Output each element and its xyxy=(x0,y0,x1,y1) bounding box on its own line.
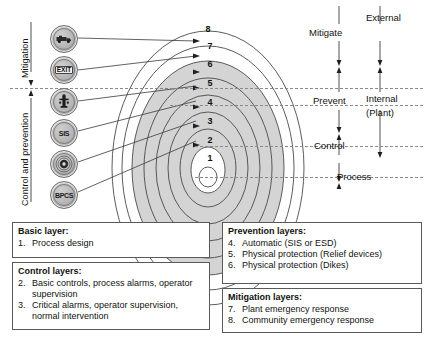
zone-label-external: External xyxy=(366,12,401,23)
alarm-siren-icon[interactable] xyxy=(50,150,78,178)
dashed-line-control-process xyxy=(195,146,423,147)
bpcs-icon[interactable]: BPCS xyxy=(50,181,78,209)
exit-sign-glyph: EXIT xyxy=(53,59,75,81)
item-text: Critical alarms, operator supervision, n… xyxy=(32,300,204,322)
exit-sign-label: EXIT xyxy=(55,66,73,75)
legend-list-control: 2. Basic controls, process alarms, opera… xyxy=(18,278,204,322)
fire-hydrant-icon[interactable] xyxy=(50,88,78,116)
item-text: Physical protection (Relief devices) xyxy=(242,249,416,260)
zone-label-control: Control xyxy=(314,140,345,151)
legend-box-mitigation-layers: Mitigation layers: 7. Plant emergency re… xyxy=(222,288,422,333)
ring-number-4: 4 xyxy=(204,97,216,107)
zone-label-internal: Internal xyxy=(366,93,398,104)
item-text: Plant emergency response xyxy=(242,304,416,315)
alarm-siren-glyph xyxy=(53,153,75,175)
dashed-line-process xyxy=(195,177,423,178)
connector-lines xyxy=(78,38,196,192)
ring-3 xyxy=(168,112,248,224)
diagram-canvas: Mitigation Control and prevention EXIT xyxy=(0,0,433,346)
connector-arrowheads xyxy=(193,39,200,148)
bpcs-glyph: BPCS xyxy=(53,184,75,206)
list-item: 4. Automatic (SIS or ESD) xyxy=(228,238,416,249)
side-label-control-and-prevention: Control and prevention xyxy=(20,96,30,206)
list-item: 8. Community emergency response xyxy=(228,315,416,326)
item-text: Basic controls, process alarms, operator… xyxy=(32,278,204,300)
legend-box-basic-layer: Basic layer: 1. Process design xyxy=(12,222,210,258)
zone-label-prevent: Prevent xyxy=(313,95,346,106)
ring-number-5: 5 xyxy=(204,78,216,88)
item-number: 3. xyxy=(18,300,32,322)
ring-number-6: 6 xyxy=(204,59,216,69)
item-number: 4. xyxy=(228,238,242,249)
legend-list-prevention: 4. Automatic (SIS or ESD) 5. Physical pr… xyxy=(228,238,416,271)
item-text: Community emergency response xyxy=(242,315,416,326)
zone-arrowheads xyxy=(337,60,383,189)
list-item: 5. Physical protection (Relief devices) xyxy=(228,249,416,260)
legend-header-mitigation: Mitigation layers: xyxy=(228,292,416,303)
zone-label-process: Process xyxy=(337,171,371,182)
legend-box-control-layers: Control layers: 2. Basic controls, proce… xyxy=(12,262,210,330)
fire-truck-glyph xyxy=(53,28,75,50)
list-item: 6. Physical protection (Dikes) xyxy=(228,260,416,271)
item-number: 5. xyxy=(228,249,242,260)
ring-number-3: 3 xyxy=(204,116,216,126)
sis-icon[interactable]: SIS xyxy=(50,119,78,147)
ring-number-7: 7 xyxy=(204,41,216,51)
zone-label-internal-sub: (Plant) xyxy=(366,107,394,118)
item-number: 7. xyxy=(228,304,242,315)
item-number: 2. xyxy=(18,278,32,300)
item-text: Automatic (SIS or ESD) xyxy=(242,238,416,249)
legend-header-prevention: Prevention layers: xyxy=(228,226,416,237)
sis-glyph: SIS xyxy=(53,122,75,144)
fire-truck-icon[interactable] xyxy=(50,25,78,53)
item-text: Physical protection (Dikes) xyxy=(242,260,416,271)
dashed-line-mitigate-prevent xyxy=(10,88,423,89)
side-label-mitigation: Mitigation xyxy=(20,18,30,78)
zone-label-mitigate: Mitigate xyxy=(309,27,342,38)
item-number: 8. xyxy=(228,315,242,326)
item-number: 1. xyxy=(18,238,32,249)
ring-number-8: 8 xyxy=(202,24,214,34)
fire-hydrant-glyph xyxy=(53,91,75,113)
list-item: 1. Process design xyxy=(18,238,204,249)
bpcs-label: BPCS xyxy=(55,192,73,199)
ring-number-2: 2 xyxy=(204,135,216,145)
ring-number-1: 1 xyxy=(204,153,216,163)
item-number: 6. xyxy=(228,260,242,271)
item-text: Process design xyxy=(32,238,204,249)
list-item: 2. Basic controls, process alarms, opera… xyxy=(18,278,204,300)
legend-box-prevention-layers: Prevention layers: 4. Automatic (SIS or … xyxy=(222,222,422,284)
legend-list-mitigation: 7. Plant emergency response 8. Community… xyxy=(228,304,416,326)
list-item: 7. Plant emergency response xyxy=(228,304,416,315)
sis-label: SIS xyxy=(59,130,69,137)
legend-header-control: Control layers: xyxy=(18,266,204,277)
legend-list-basic: 1. Process design xyxy=(18,238,204,249)
list-item: 3. Critical alarms, operator supervision… xyxy=(18,300,204,322)
legend-header-basic: Basic layer: xyxy=(18,226,204,237)
exit-sign-icon[interactable]: EXIT xyxy=(50,56,78,84)
